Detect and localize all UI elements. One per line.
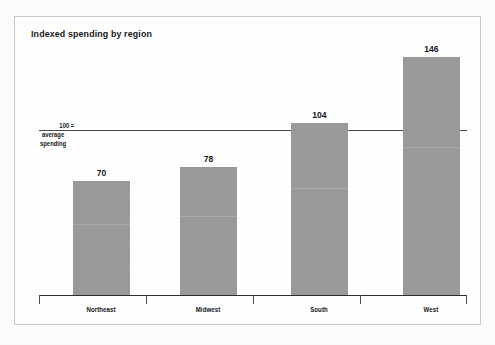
axis-tick	[466, 295, 467, 304]
category-label-northeast: Northeast	[55, 306, 147, 313]
bar-south[interactable]	[291, 123, 348, 295]
reference-line-annotation: 100 = average spending	[31, 121, 75, 149]
annotation-line-1: 100 =	[31, 121, 75, 130]
bar-northeast[interactable]	[73, 181, 130, 295]
bar-value-northeast: 70	[76, 167, 127, 178]
category-label-west: West	[385, 306, 477, 313]
plot-area: 70 78 104 146 Northeast Midwest South We…	[39, 31, 467, 297]
category-label-south: South	[273, 306, 365, 313]
bar-value-midwest: 78	[183, 153, 234, 164]
bar-value-west: 146	[406, 43, 457, 54]
annotation-line-2: average	[31, 130, 75, 139]
axis-tick	[146, 295, 147, 304]
bar-west[interactable]	[403, 57, 460, 295]
category-label-midwest: Midwest	[162, 306, 254, 313]
scanned-page: Indexed spending by region 70 78 104	[0, 0, 495, 345]
axis-tick	[39, 295, 40, 304]
annotation-line-3: spending	[31, 139, 75, 148]
axis-tick	[253, 295, 254, 304]
chart-frame: Indexed spending by region 70 78 104	[14, 16, 481, 325]
bar-value-south: 104	[294, 109, 345, 120]
bar-midwest[interactable]	[180, 167, 237, 295]
axis-tick	[360, 295, 361, 304]
